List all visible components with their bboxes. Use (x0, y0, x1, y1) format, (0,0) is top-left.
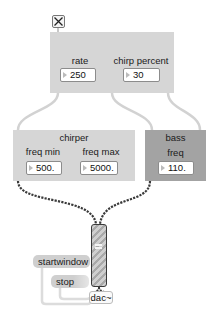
chirper-title: chirper (13, 132, 135, 143)
freq-min-value: 500. (36, 162, 55, 173)
dac-object[interactable]: dac~ (89, 291, 113, 304)
chirp-percent-label: chirp percent (110, 55, 172, 66)
bass-freq-number-box[interactable]: 110. (158, 161, 194, 175)
triangle-icon (161, 165, 165, 171)
triangle-icon (29, 165, 33, 171)
bass-panel: bass freq 110. (145, 130, 206, 181)
startwindow-message[interactable]: startwindow (33, 255, 90, 268)
freq-max-value: 5000. (90, 162, 114, 173)
freq-max-label: freq max (75, 146, 127, 157)
rate-value: 250 (70, 69, 86, 80)
freq-min-label: freq min (21, 146, 65, 157)
x-icon (53, 16, 64, 27)
triangle-icon (83, 165, 87, 171)
stop-message[interactable]: stop (51, 275, 89, 288)
toggle-checkbox[interactable] (52, 15, 65, 28)
slider-knob (95, 244, 102, 246)
triangle-icon (63, 72, 67, 78)
triangle-icon (126, 72, 130, 78)
chirp-percent-number-box[interactable]: 30 (123, 68, 160, 82)
rate-label: rate (55, 55, 105, 66)
slider-knob-line (95, 247, 102, 249)
bass-title: bass (145, 132, 206, 143)
chirp-percent-value: 30 (133, 69, 144, 80)
freq-min-number-box[interactable]: 500. (26, 161, 62, 175)
control-panel: rate 250 chirp percent 30 (50, 32, 174, 93)
bass-freq-label: freq (145, 147, 206, 158)
rate-number-box[interactable]: 250 (60, 68, 96, 82)
freq-max-number-box[interactable]: 5000. (80, 161, 118, 175)
gain-slider[interactable] (91, 224, 107, 287)
bass-freq-value: 110. (168, 162, 186, 173)
chirper-panel: chirper freq min 500. freq max 5000. (13, 130, 135, 181)
